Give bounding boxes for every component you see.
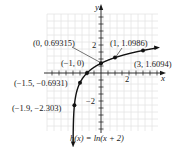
data-point <box>99 61 103 65</box>
point-label-0-0.69315: (0, 0.69315) <box>33 38 75 48</box>
point-label-neg1.5: (−1.5, −0.6931) <box>14 78 68 88</box>
point-label-neg1.9: (−1.9, −2.303) <box>12 103 61 113</box>
y-tick-label-2: 2 <box>92 40 96 50</box>
y-axis-label: y <box>94 2 99 12</box>
point-label-neg1-0: (−1, 0) <box>61 58 84 68</box>
point-label-3-1.6094: (3, 1.6094) <box>134 59 172 69</box>
data-point <box>85 71 89 75</box>
point-label-1-1.0986: (1, 1.0986) <box>110 38 148 48</box>
data-point <box>141 48 145 52</box>
x-axis-label: x <box>160 73 165 83</box>
y-tick-label-neg2: −2 <box>86 96 95 106</box>
x-tick-label-2: 2 <box>125 74 129 84</box>
data-point <box>72 103 76 107</box>
data-point <box>78 81 82 85</box>
chart: y x 2 2 −2 (0, 0.69315) (1, 1.0986) (−1,… <box>0 0 180 147</box>
data-point <box>113 56 117 60</box>
function-label: h(x) = ln(x + 2) <box>70 133 124 143</box>
grid <box>47 14 158 131</box>
